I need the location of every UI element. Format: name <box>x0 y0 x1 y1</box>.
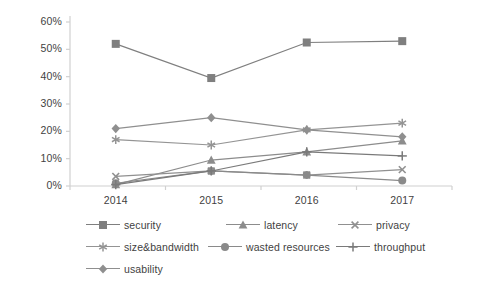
legend-item-label: latency <box>264 219 298 231</box>
legend-item-wasted-resources[interactable]: wasted resources <box>208 238 330 256</box>
legend-item-label: usability <box>124 263 163 275</box>
chart-legend: securitylatencyprivacysize&bandwidthwast… <box>86 216 478 278</box>
square-marker-icon <box>97 219 109 231</box>
diamond-marker-icon <box>303 125 311 134</box>
plus-marker-icon <box>398 151 407 160</box>
diamond-marker-icon <box>207 113 215 122</box>
legend-item-label: size&bandwidth <box>124 241 199 253</box>
legend-item-latency[interactable]: latency <box>226 216 298 234</box>
legend-item-label: privacy <box>376 219 410 231</box>
legend-key <box>86 218 120 232</box>
diamond-marker-icon <box>398 132 406 141</box>
x-marker-icon <box>352 222 359 229</box>
circle-marker-icon <box>219 241 231 253</box>
legend-key <box>86 240 120 254</box>
line-chart: 60%50%40%30%20%10%0% 2014201520162017 se… <box>0 0 481 284</box>
circle-marker-icon <box>398 177 406 185</box>
series-security <box>112 37 407 82</box>
legend-item-usability[interactable]: usability <box>86 260 163 278</box>
legend-key <box>338 218 372 232</box>
triangle-marker-icon <box>239 220 248 228</box>
legend-key <box>336 240 370 254</box>
square-marker-icon <box>398 37 406 45</box>
circle-marker-icon <box>221 243 229 251</box>
square-marker-icon <box>207 74 215 82</box>
series-line <box>116 118 403 137</box>
series-line <box>116 152 403 185</box>
legend-key <box>226 218 260 232</box>
square-marker-icon <box>112 40 120 48</box>
diamond-marker-icon <box>99 264 107 273</box>
series-latency <box>111 136 406 188</box>
circle-marker-icon <box>303 171 311 179</box>
series-line <box>116 171 403 183</box>
series-throughput <box>111 147 407 189</box>
legend-item-privacy[interactable]: privacy <box>338 216 410 234</box>
legend-key <box>208 240 242 254</box>
legend-item-size-bandwidth[interactable]: size&bandwidth <box>86 238 199 256</box>
square-marker-icon <box>303 39 311 47</box>
series-wasted-resources <box>112 167 407 187</box>
diamond-marker-icon <box>112 124 120 133</box>
legend-item-label: wasted resources <box>246 241 330 253</box>
diamond-marker-icon <box>97 263 109 275</box>
plus-marker-icon <box>347 241 359 253</box>
x-marker-icon <box>349 219 361 231</box>
legend-key <box>86 262 120 276</box>
triangle-marker-icon <box>237 219 249 231</box>
legend-item-label: throughput <box>374 241 425 253</box>
series-line <box>116 41 403 78</box>
square-marker-icon <box>99 221 107 229</box>
asterisk-marker-icon <box>97 241 109 253</box>
legend-item-throughput[interactable]: throughput <box>336 238 425 256</box>
legend-item-label: security <box>124 219 161 231</box>
asterisk-marker-icon <box>99 243 107 252</box>
plus-marker-icon <box>348 242 357 251</box>
legend-item-security[interactable]: security <box>86 216 161 234</box>
